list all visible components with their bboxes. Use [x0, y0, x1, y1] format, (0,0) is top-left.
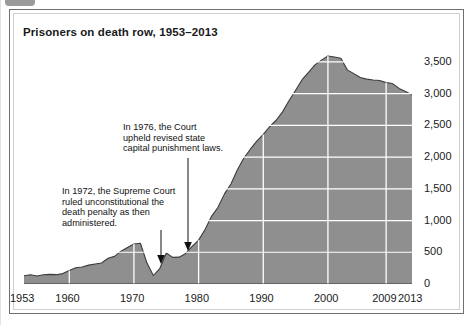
x-tick-label-1990: 1990 — [249, 292, 273, 304]
y-tick-label-3000: 3,000 — [424, 87, 452, 99]
area-chart-svg — [24, 46, 412, 284]
y-tick-label-2000: 2,000 — [424, 150, 452, 162]
x-tick-label-2013: 2013 — [398, 292, 422, 304]
tab-marker-icon — [5, 0, 35, 6]
x-tick-label-1960: 1960 — [55, 292, 79, 304]
x-tick-label-1980: 1980 — [185, 292, 209, 304]
chart-plot-area — [24, 46, 412, 284]
y-tick-label-2500: 2,500 — [424, 118, 452, 130]
page-edge-rule — [0, 0, 1, 325]
annotation-1972: In 1972, the Supreme Court ruled unconst… — [62, 186, 175, 228]
chart-title: Prisoners on death row, 1953–2013 — [23, 26, 218, 38]
x-tick-label-1970: 1970 — [120, 292, 144, 304]
y-tick-label-0: 0 — [424, 277, 430, 289]
annotation-1976: In 1976, the Court upheld revised state … — [123, 122, 223, 154]
x-tick-label-2000: 2000 — [314, 292, 338, 304]
y-tick-label-1500: 1,500 — [424, 182, 452, 194]
x-tick-label-1953: 1953 — [10, 292, 34, 304]
y-tick-label-3500: 3,500 — [424, 55, 452, 67]
area-series-prisoners-on-death-row — [24, 56, 412, 284]
y-tick-label-1000: 1,000 — [424, 214, 452, 226]
figure-root: Prisoners on death row, 1953–2013 05001,… — [0, 0, 475, 325]
y-tick-label-500: 500 — [424, 245, 442, 257]
x-tick-label-2009: 2009 — [372, 292, 396, 304]
